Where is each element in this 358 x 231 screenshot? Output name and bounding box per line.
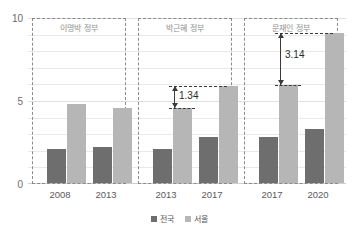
annotation-dash-bottom-1 bbox=[275, 85, 301, 86]
x-tick-0: 2008 bbox=[49, 189, 70, 200]
legend-label-nation: 전국 bbox=[160, 213, 174, 224]
group-label-0: 이명박 정부 bbox=[33, 22, 125, 33]
legend-swatch-icon-nation bbox=[151, 216, 157, 222]
bar-nation-2017a bbox=[199, 137, 218, 183]
legend-item-seoul[interactable]: 서울 bbox=[185, 213, 208, 224]
group-moon-jae-in: 문재인 정부 3.14 bbox=[244, 18, 338, 184]
bar-seoul-2013a bbox=[113, 108, 132, 183]
bar-nation-2020 bbox=[305, 129, 324, 183]
annotation-dash-bottom-0 bbox=[169, 108, 195, 109]
bar-nation-2013a bbox=[93, 147, 112, 183]
y-tick-10: 10 bbox=[12, 13, 23, 24]
x-tick-3: 2017 bbox=[201, 189, 222, 200]
group-lee-myung-bak: 이명박 정부 bbox=[32, 18, 126, 184]
bar-chart: 10 5 0 이명박 정부 박근혜 정부 1.34 bbox=[0, 0, 358, 231]
group-label-2: 문재인 정부 bbox=[245, 22, 337, 33]
bar-seoul-2020 bbox=[325, 33, 344, 183]
legend-label-seoul: 서울 bbox=[194, 213, 208, 224]
bar-nation-2013b bbox=[153, 149, 172, 183]
y-tick-5: 5 bbox=[17, 96, 23, 107]
x-tick-1: 2013 bbox=[95, 189, 116, 200]
bar-nation-2017b bbox=[259, 137, 278, 183]
annotation-value-1: 3.14 bbox=[285, 49, 304, 60]
legend-item-nation[interactable]: 전국 bbox=[151, 213, 174, 224]
y-tick-0: 0 bbox=[17, 179, 23, 190]
bar-seoul-2013b bbox=[173, 108, 192, 183]
x-tick-4: 2017 bbox=[261, 189, 282, 200]
bar-seoul-2017b bbox=[279, 85, 298, 183]
x-tick-5: 2020 bbox=[307, 189, 328, 200]
plot-area: 10 5 0 이명박 정부 박근혜 정부 1.34 bbox=[28, 18, 346, 184]
chart-legend: 전국 서울 bbox=[0, 213, 358, 224]
group-park-geun-hye: 박근혜 정부 1.34 bbox=[138, 18, 232, 184]
annotation-value-0: 1.34 bbox=[179, 90, 198, 101]
bar-seoul-2008 bbox=[67, 104, 86, 183]
annotation-arrow-1 bbox=[280, 33, 281, 84]
annotation-arrow-0 bbox=[174, 86, 175, 108]
bar-seoul-2017a bbox=[219, 86, 238, 183]
legend-swatch-icon-seoul bbox=[185, 216, 191, 222]
x-tick-2: 2013 bbox=[155, 189, 176, 200]
bar-nation-2008 bbox=[47, 149, 66, 183]
group-label-1: 박근혜 정부 bbox=[139, 22, 231, 33]
